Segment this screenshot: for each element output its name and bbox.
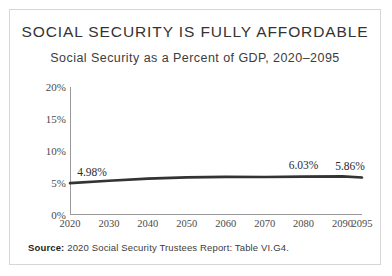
line-series <box>70 87 362 215</box>
x-axis-tick-label: 2020 <box>60 218 81 229</box>
chart-plot-area: 0%5%10%15%20% 4.98%6.03%5.86% 2020203020… <box>10 74 382 234</box>
x-axis-tick-label: 2080 <box>293 218 314 229</box>
source-label: Source: <box>28 242 64 253</box>
x-axis-tick-label: 2095 <box>352 218 373 229</box>
x-axis-tick-label: 2070 <box>254 218 275 229</box>
series-container <box>70 87 362 215</box>
y-axis-tick-label: 5% <box>20 177 66 189</box>
source-text: 2020 Social Security Trustees Report: Ta… <box>64 242 289 253</box>
source-note: Source: 2020 Social Security Trustees Re… <box>28 242 289 253</box>
x-axis-tick-label: 2060 <box>215 218 236 229</box>
chart-card: SOCIAL SECURITY IS FULLY AFFORDABLE Soci… <box>9 9 381 265</box>
y-axis-tick-label: 20% <box>20 81 66 93</box>
x-axis-tick-label: 2090 <box>332 218 353 229</box>
x-axis-ticks: 202020302040205020602070208020902095 <box>70 218 362 236</box>
series-line <box>70 176 362 183</box>
x-axis-tick-label: 2040 <box>137 218 158 229</box>
x-axis-tick-label: 2030 <box>98 218 119 229</box>
page-title: SOCIAL SECURITY IS FULLY AFFORDABLE <box>10 23 380 41</box>
chart-subtitle: Social Security as a Percent of GDP, 202… <box>10 51 380 65</box>
y-axis-tick-label: 15% <box>20 113 66 125</box>
y-axis-tick-label: 10% <box>20 145 66 157</box>
y-axis-ticks: 0%5%10%15%20% <box>10 87 66 215</box>
x-axis-tick-label: 2050 <box>176 218 197 229</box>
